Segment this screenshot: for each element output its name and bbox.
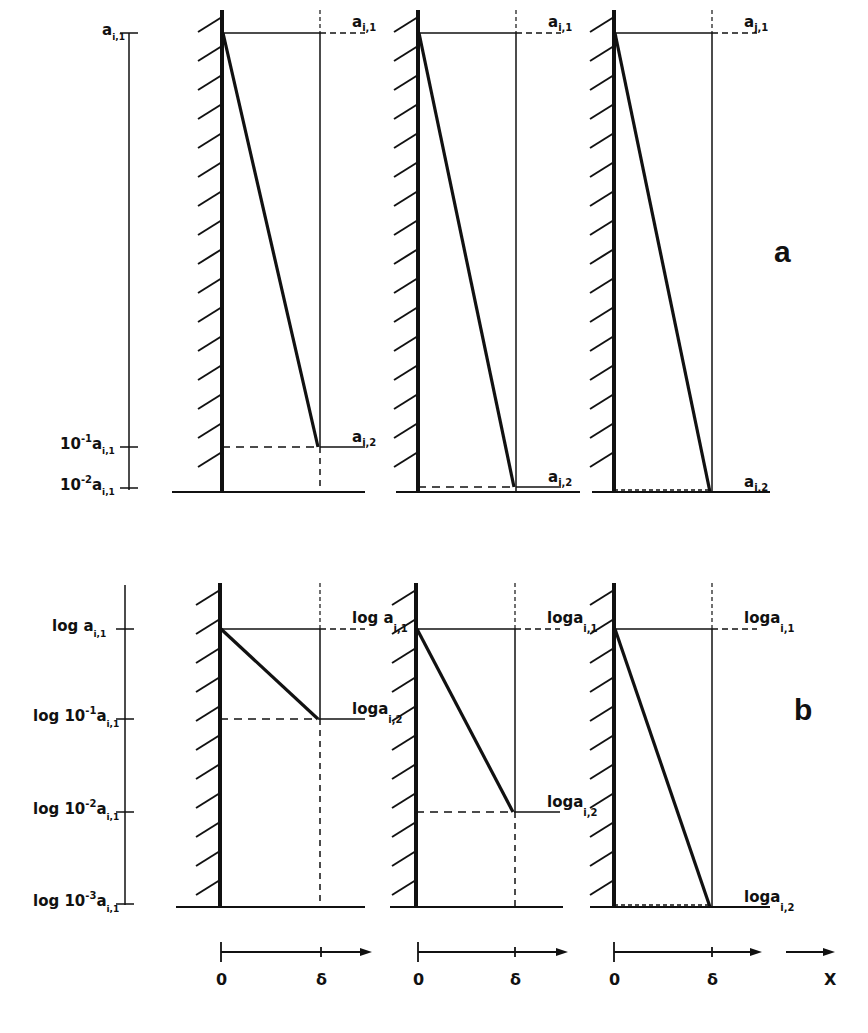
hatch-stroke <box>392 851 416 866</box>
hatch-stroke <box>394 278 418 293</box>
subplot: ai,1ai,2 <box>394 10 580 492</box>
hatch-stroke <box>198 365 222 380</box>
hatch-stroke <box>590 648 614 663</box>
hatch-stroke <box>392 677 416 692</box>
wall-hatching <box>394 17 418 467</box>
origin-label: 0 <box>413 970 424 989</box>
hatch-stroke <box>394 133 418 148</box>
x-axis-row: 0δ0δ0δX <box>216 942 837 989</box>
arrowhead-icon <box>360 948 372 956</box>
subplot: log ai,1logai,2 <box>176 583 408 907</box>
hatch-stroke <box>394 191 418 206</box>
hatch-stroke <box>590 394 614 409</box>
x-axis-segment: 0δ <box>216 942 372 989</box>
wall-hatching <box>196 590 220 895</box>
surface-concentration-label: ai,1 <box>352 13 376 33</box>
hatch-stroke <box>590 336 614 351</box>
hatch-stroke <box>590 249 614 264</box>
delta-label: δ <box>510 970 521 989</box>
concentration-profile-line <box>419 33 514 487</box>
hatch-stroke <box>198 249 222 264</box>
figure-canvas: ai,110-1ai,110-2ai,1ai,1ai,2ai,1ai,2aj,1… <box>0 0 868 1033</box>
hatch-stroke <box>590 590 614 605</box>
hatch-stroke <box>394 75 418 90</box>
depth-concentration-label: ai,2 <box>548 468 572 488</box>
hatch-stroke <box>590 851 614 866</box>
hatch-stroke <box>196 619 220 634</box>
surface-concentration-label: aj,1 <box>744 13 768 33</box>
hatch-stroke <box>590 220 614 235</box>
subplot: aj,1aj,2 <box>590 10 770 493</box>
depth-concentration-label: ai,2 <box>352 428 376 448</box>
hatch-stroke <box>590 365 614 380</box>
hatch-stroke <box>198 191 222 206</box>
concentration-profile-line <box>615 629 710 907</box>
hatch-stroke <box>590 423 614 438</box>
hatch-stroke <box>196 735 220 750</box>
hatch-stroke <box>196 822 220 837</box>
hatch-stroke <box>392 590 416 605</box>
x-axis-label: X <box>824 970 837 989</box>
concentration-profile-line <box>223 33 318 447</box>
hatch-stroke <box>394 17 418 32</box>
hatch-stroke <box>392 880 416 895</box>
hatch-stroke <box>394 104 418 119</box>
hatch-stroke <box>392 735 416 750</box>
arrowhead-icon <box>823 948 835 956</box>
concentration-profile-line <box>221 629 318 719</box>
hatch-stroke <box>590 677 614 692</box>
hatch-stroke <box>394 220 418 235</box>
hatch-stroke <box>198 162 222 177</box>
hatch-stroke <box>196 793 220 808</box>
hatch-stroke <box>198 336 222 351</box>
hatch-stroke <box>394 452 418 467</box>
hatch-stroke <box>590 822 614 837</box>
hatch-stroke <box>198 394 222 409</box>
hatch-stroke <box>392 822 416 837</box>
hatch-stroke <box>394 336 418 351</box>
hatch-stroke <box>590 191 614 206</box>
hatch-stroke <box>590 278 614 293</box>
x-axis-segment: 0δ <box>413 942 568 989</box>
hatch-stroke <box>196 648 220 663</box>
depth-concentration-label: logai,2 <box>744 888 795 913</box>
depth-concentration-label: aj,2 <box>744 473 768 493</box>
hatch-stroke <box>198 220 222 235</box>
depth-concentration-label: logai,2 <box>352 700 403 725</box>
y-tick-label-a: 10-1ai,1 <box>60 433 115 456</box>
hatch-stroke <box>590 46 614 61</box>
hatch-stroke <box>590 706 614 721</box>
depth-concentration-label: logai,2 <box>547 793 598 818</box>
hatch-stroke <box>394 307 418 322</box>
hatch-stroke <box>590 880 614 895</box>
hatch-stroke <box>198 307 222 322</box>
hatch-stroke <box>196 880 220 895</box>
hatch-stroke <box>394 423 418 438</box>
concentration-profile-line <box>417 629 513 812</box>
hatch-stroke <box>196 590 220 605</box>
hatch-stroke <box>394 162 418 177</box>
concentration-profile-line <box>615 33 710 492</box>
hatch-stroke <box>392 648 416 663</box>
y-tick-label-a: 10-2ai,1 <box>60 474 115 497</box>
diffusion-profile-figure: ai,110-1ai,110-2ai,1ai,1ai,2ai,1ai,2aj,1… <box>0 0 868 1033</box>
surface-concentration-label: logai,1 <box>547 609 598 634</box>
arrowhead-icon <box>556 948 568 956</box>
panel-b-label: b <box>794 693 812 726</box>
hatch-stroke <box>196 764 220 779</box>
hatch-stroke <box>394 249 418 264</box>
surface-concentration-label: ai,1 <box>548 13 572 33</box>
hatch-stroke <box>590 75 614 90</box>
hatch-stroke <box>198 452 222 467</box>
arrowhead-icon <box>750 948 762 956</box>
hatch-stroke <box>590 793 614 808</box>
x-axis-segment: 0δ <box>609 942 762 989</box>
hatch-stroke <box>590 133 614 148</box>
delta-label: δ <box>707 970 718 989</box>
hatch-stroke <box>198 17 222 32</box>
hatch-stroke <box>198 278 222 293</box>
delta-label: δ <box>316 970 327 989</box>
hatch-stroke <box>394 394 418 409</box>
hatch-stroke <box>590 307 614 322</box>
wall-hatching <box>198 17 222 467</box>
